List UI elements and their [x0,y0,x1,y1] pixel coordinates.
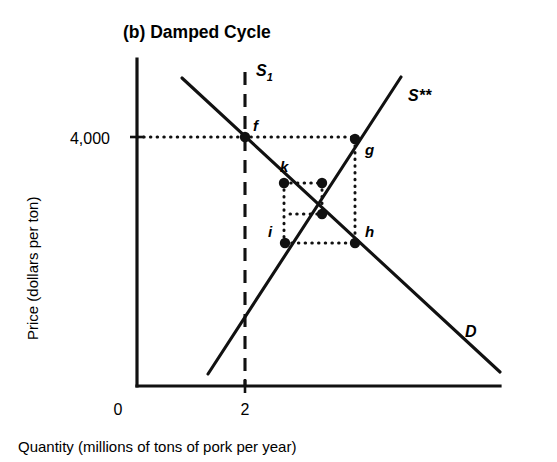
fixed-supply-label-subscript: 1 [267,71,273,83]
origin-label: 0 [114,401,123,418]
x-tick-label-2: 2 [241,401,250,418]
x-axis-title: Quantity (millions of tons of pork per y… [18,438,296,455]
panel-title: (b) Damped Cycle [123,22,271,42]
point-label-h: h [365,223,374,240]
data-point-g [350,134,360,144]
demand-curve [182,78,500,372]
data-point-f [240,132,250,142]
point-label-f: f [253,117,260,134]
y-tick-label-4000: 4,000 [70,130,110,147]
point-label-i: i [268,223,273,240]
damped-cycle-chart: (b) Damped Cycle Price (dollars per ton)… [0,0,557,462]
demand-curve-label: D [465,323,477,340]
point-label-k: k [280,158,289,175]
figure-container: (b) Damped Cycle Price (dollars per ton)… [0,0,557,462]
y-axis-title: Price (dollars per ton) [24,197,41,340]
data-point-i [280,238,290,248]
fixed-supply-label-main: S [256,62,267,79]
supply-curve-label: S** [408,87,432,104]
data-point-h [350,238,360,248]
data-point-k [279,178,289,188]
fixed-supply-label: S1 [256,62,273,83]
data-point-inner-1 [317,209,327,219]
point-label-g: g [364,141,374,158]
data-point-inner-0 [317,178,327,188]
